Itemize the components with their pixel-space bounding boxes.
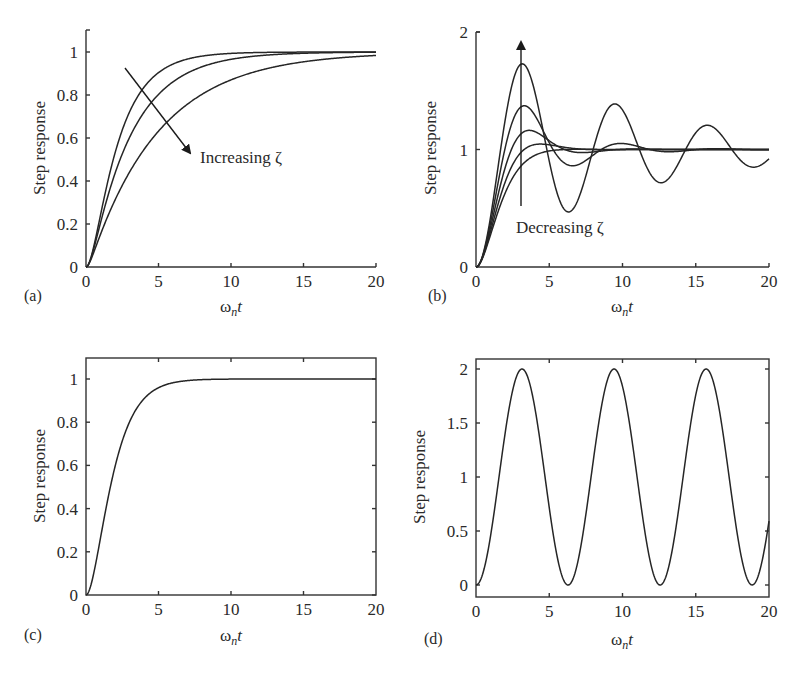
axes-c: 0510152000.20.40.60.81 <box>57 358 385 619</box>
y-tick-label: 0.8 <box>57 413 78 432</box>
axes-box <box>86 358 376 595</box>
x-tick-label: 5 <box>545 602 554 621</box>
x-tick-label: 15 <box>687 602 704 621</box>
ylabel-a: Step response <box>30 101 49 195</box>
axes-d: 0510152000.511.52 <box>447 359 778 621</box>
x-tick-label: 0 <box>82 600 91 619</box>
y-tick-label: 0.6 <box>57 129 78 148</box>
y-tick-label: 1 <box>70 43 79 62</box>
x-tick-label: 5 <box>154 600 163 619</box>
x-tick-label: 10 <box>614 272 631 291</box>
x-tick-label: 20 <box>761 272 778 291</box>
ylabel-c: Step response <box>30 429 49 523</box>
y-tick-label: 0.5 <box>447 522 468 541</box>
x-tick-label: 5 <box>154 272 163 291</box>
y-tick-label: 0 <box>70 586 79 605</box>
xlabel-b: ωnt <box>611 297 634 319</box>
y-tick-label: 0 <box>460 576 469 595</box>
figure: 0510152000.20.40.60.81 Increasing ζ Step… <box>0 0 801 673</box>
y-tick-label: 2 <box>460 360 469 379</box>
x-tick-label: 10 <box>223 272 240 291</box>
ylabel-d: Step response <box>410 430 429 524</box>
curves-c <box>86 379 376 595</box>
x-tick-label: 5 <box>545 272 554 291</box>
series-line <box>476 369 769 585</box>
y-tick-label: 0 <box>460 258 469 277</box>
axes-b: 05101520012 <box>460 23 778 291</box>
x-tick-label: 20 <box>368 600 385 619</box>
x-tick-label: 20 <box>368 272 385 291</box>
y-tick-label: 2 <box>460 23 469 42</box>
y-tick-label: 0.8 <box>57 86 78 105</box>
y-tick-label: 0.4 <box>57 500 79 519</box>
increasing-zeta-label: Increasing ζ <box>200 148 282 167</box>
panel-label-d: (d) <box>424 630 443 648</box>
panel-b: 05101520012 Decreasing ζ Step response ω… <box>421 23 778 319</box>
series-line <box>476 149 769 267</box>
y-tick-label: 0.2 <box>57 543 78 562</box>
y-tick-label: 1 <box>70 370 79 389</box>
x-tick-label: 0 <box>472 602 481 621</box>
y-tick-label: 0.2 <box>57 215 78 234</box>
x-tick-label: 0 <box>472 272 481 291</box>
y-tick-label: 0.6 <box>57 456 78 475</box>
ylabel-b: Step response <box>421 101 440 195</box>
panel-a: 0510152000.20.40.60.81 Increasing ζ Step… <box>24 30 385 319</box>
series-line <box>86 379 376 595</box>
y-tick-label: 1.5 <box>447 414 468 433</box>
x-tick-label: 10 <box>614 602 631 621</box>
x-tick-label: 20 <box>761 602 778 621</box>
decreasing-zeta-label: Decreasing ζ <box>516 218 604 237</box>
xlabel-a: ωnt <box>220 297 243 319</box>
x-tick-label: 0 <box>82 272 91 291</box>
xlabel-d: ωnt <box>611 630 634 652</box>
panel-d: 0510152000.511.52 Step response ωnt (d) <box>410 359 778 652</box>
panel-label-b: (b) <box>428 287 447 305</box>
x-tick-label: 15 <box>295 272 312 291</box>
panel-label-c: (c) <box>24 626 42 644</box>
y-tick-label: 1 <box>460 141 469 160</box>
y-tick-label: 0 <box>70 258 79 277</box>
x-tick-label: 10 <box>223 600 240 619</box>
series-line <box>476 130 769 267</box>
panel-label-a: (a) <box>24 287 42 305</box>
axes-box <box>476 359 769 597</box>
y-tick-label: 0.4 <box>57 172 79 191</box>
y-tick-label: 1 <box>460 468 469 487</box>
xlabel-c: ωnt <box>220 626 243 648</box>
series-line <box>476 144 769 267</box>
panel-c: 0510152000.20.40.60.81 Step response ωnt… <box>24 358 385 648</box>
curves-d <box>476 369 769 585</box>
series-line <box>476 106 769 267</box>
x-tick-label: 15 <box>687 272 704 291</box>
x-tick-label: 15 <box>295 600 312 619</box>
